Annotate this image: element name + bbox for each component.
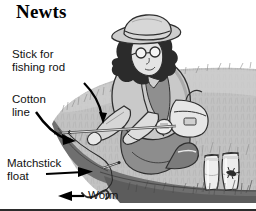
figure-newts: Newts Stick for fishing rod Cotton line … [0, 0, 256, 211]
callout-cotton-line: Cotton line [12, 93, 46, 118]
glass-jar-empty [204, 155, 219, 191]
arrow-worm [58, 191, 84, 201]
callout-matchstick-float: Matchstick float [7, 157, 61, 182]
figure-title: Newts [16, 1, 67, 23]
callout-stick-for-fishing-rod: Stick for fishing rod [12, 48, 65, 73]
callout-worm: Worm [88, 189, 118, 202]
bottom-divider [0, 209, 256, 211]
wide-brim-hat [112, 15, 181, 44]
